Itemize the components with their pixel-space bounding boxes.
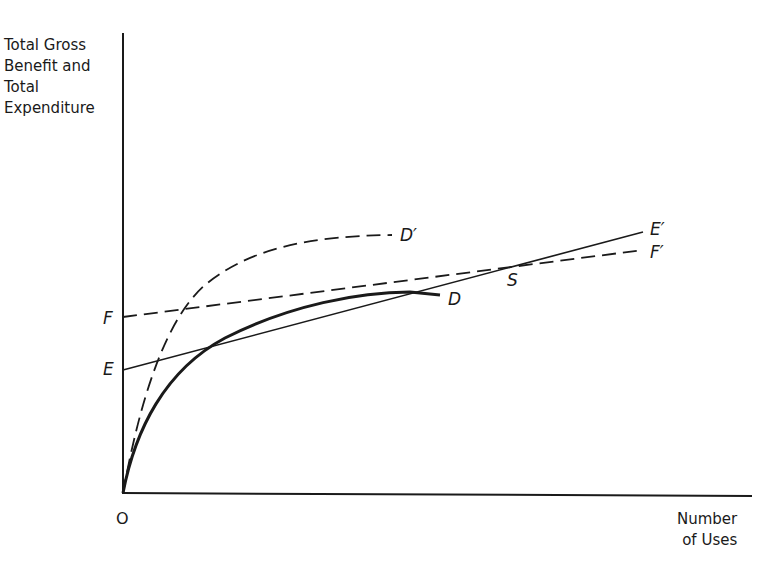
point-label-e: E bbox=[103, 361, 114, 378]
x-axis-label-line-1: Number bbox=[677, 509, 737, 530]
point-label-f-prime: F′ bbox=[650, 244, 664, 261]
point-label-d: D bbox=[448, 291, 461, 308]
x-axis-label: Number of Uses bbox=[677, 509, 737, 551]
x-axis-label-line-2: of Uses bbox=[677, 530, 737, 551]
point-label-f: F bbox=[103, 310, 113, 327]
point-label-d-prime: D′ bbox=[400, 227, 417, 244]
point-label-s: S bbox=[507, 272, 518, 289]
line-f-f-prime bbox=[123, 250, 643, 317]
curve-d bbox=[123, 292, 440, 493]
x-axis bbox=[122, 493, 752, 496]
line-e-e-prime bbox=[123, 232, 643, 370]
curve-d-prime bbox=[123, 235, 392, 493]
point-label-e-prime: E′ bbox=[650, 221, 665, 238]
diagram-canvas bbox=[0, 0, 775, 573]
origin-label: O bbox=[116, 511, 129, 527]
